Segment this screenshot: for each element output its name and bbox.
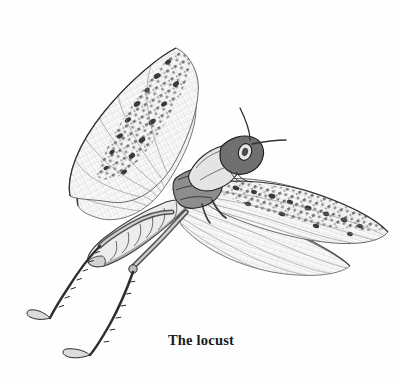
figure-caption: The locust [0, 332, 402, 349]
locust-illustration [0, 0, 402, 386]
illustration-plate: The locust [0, 0, 402, 386]
